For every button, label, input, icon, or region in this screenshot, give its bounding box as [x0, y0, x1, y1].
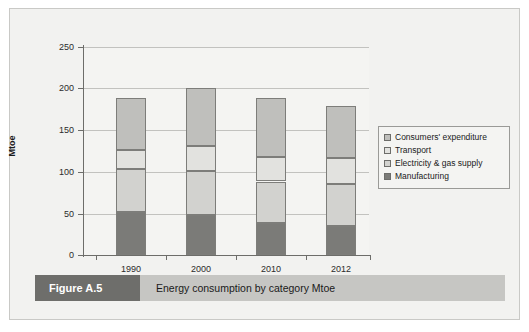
y-axis-title: Mtoe [7, 136, 17, 157]
bar-segment-transport[interactable] [186, 146, 216, 171]
bar-segment-consumers-expenditure[interactable] [326, 106, 356, 158]
x-tick-label-2000: 2000 [171, 264, 231, 274]
bar-segment-transport[interactable] [116, 150, 146, 169]
legend-label: Electricity & gas supply [395, 158, 482, 168]
y-tick-label-50: 50 [34, 210, 74, 219]
x-tick-label-2010: 2010 [241, 264, 301, 274]
figure-caption-text: Energy consumption by category Mtoe [140, 275, 505, 301]
bar-segment-manufacturing[interactable] [326, 226, 356, 255]
x-tick-label-1990: 1990 [101, 264, 161, 274]
bar-segment-consumers-expenditure[interactable] [186, 88, 216, 146]
bar-segment-manufacturing[interactable] [256, 223, 286, 255]
figure-number-tag: Figure A.5 [35, 275, 140, 301]
x-tick-2000 [236, 255, 237, 260]
legend-item-transport[interactable]: Transport [384, 144, 504, 156]
legend-swatch-icon [384, 134, 391, 141]
bar-segment-electricity-gas-supply[interactable] [186, 171, 216, 215]
bar-stack-2012[interactable] [326, 47, 356, 255]
y-tick-label-250: 250 [34, 43, 74, 52]
bar-segment-transport[interactable] [256, 157, 286, 182]
legend-swatch-icon [384, 173, 391, 180]
legend-item-electricity-gas-supply[interactable]: Electricity & gas supply [384, 157, 504, 169]
legend-item-consumers-expenditure[interactable]: Consumers' expenditure [384, 131, 504, 143]
y-tick-label-200: 200 [34, 84, 74, 93]
figure-panel: 250 200 150 100 50 0 Mtoe [9, 8, 520, 320]
bar-segment-electricity-gas-supply[interactable] [256, 182, 286, 224]
bar-stack-1990[interactable] [116, 47, 146, 255]
legend-label: Transport [395, 145, 431, 155]
chart-legend: Consumers' expenditure Transport Electri… [378, 126, 510, 189]
bar-segment-manufacturing[interactable] [186, 215, 216, 255]
figure-caption-bar: Figure A.5 Energy consumption by categor… [35, 275, 505, 301]
legend-swatch-icon [384, 160, 391, 167]
y-axis-line [83, 45, 84, 257]
legend-item-manufacturing[interactable]: Manufacturing [384, 170, 504, 182]
bar-segment-consumers-expenditure[interactable] [116, 98, 146, 150]
bar-stack-2010[interactable] [256, 47, 286, 255]
x-axis-line [83, 255, 371, 256]
legend-swatch-icon [384, 147, 391, 154]
y-tick-label-0: 0 [34, 251, 74, 260]
bar-segment-manufacturing[interactable] [116, 212, 146, 255]
x-tick-start [96, 255, 97, 260]
y-tick-label-100: 100 [34, 168, 74, 177]
y-tick-label-150: 150 [34, 126, 74, 135]
y-axis-labels: 250 200 150 100 50 0 [28, 9, 74, 269]
x-tick-label-2012: 2012 [311, 264, 371, 274]
bar-segment-electricity-gas-supply[interactable] [326, 184, 356, 226]
legend-label: Consumers' expenditure [395, 132, 487, 142]
bar-stack-2000[interactable] [186, 47, 216, 255]
bar-segment-consumers-expenditure[interactable] [256, 98, 286, 156]
x-tick-1990 [166, 255, 167, 260]
bar-segment-transport[interactable] [326, 158, 356, 184]
x-tick-2010 [306, 255, 307, 260]
x-tick-2012 [370, 255, 371, 260]
legend-label: Manufacturing [395, 171, 449, 181]
bar-segment-electricity-gas-supply[interactable] [116, 169, 146, 212]
